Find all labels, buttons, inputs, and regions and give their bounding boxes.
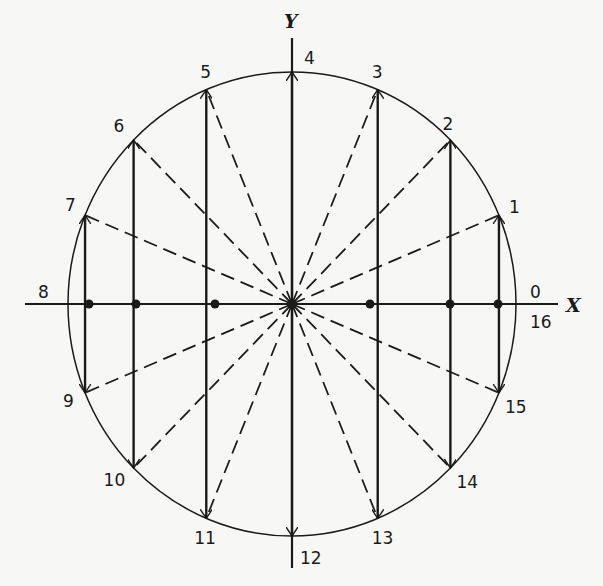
projection-dot: [288, 300, 297, 309]
point-label-14: 14: [456, 472, 478, 492]
radial-line-1: [292, 215, 499, 304]
point-label-8: 8: [38, 282, 49, 302]
radial-line-2: [292, 140, 450, 304]
projection-dot: [494, 300, 503, 309]
radial-line-5: [206, 90, 292, 304]
point-label-6: 6: [114, 116, 125, 136]
projection-dot: [211, 300, 220, 309]
radial-line-14: [292, 304, 450, 468]
projection-dot: [366, 300, 375, 309]
point-label-3: 3: [372, 62, 383, 82]
point-label-10: 10: [104, 470, 126, 490]
point-label-4: 4: [304, 48, 315, 68]
radial-line-13: [292, 304, 378, 518]
point-label-11: 11: [194, 528, 216, 548]
projection-dot: [85, 300, 94, 309]
point-label-15: 15: [505, 397, 527, 417]
radial-line-11: [206, 304, 292, 518]
point-label-16: 16: [530, 312, 552, 332]
point-label-12: 12: [300, 548, 322, 568]
diagram-canvas: 012345678910111213141516 X Y: [0, 0, 603, 586]
point-label-13: 13: [372, 528, 394, 548]
projection-dot: [132, 300, 141, 309]
radial-line-3: [292, 90, 378, 304]
radial-line-7: [85, 215, 292, 304]
point-label-7: 7: [65, 195, 76, 215]
point-label-2: 2: [442, 114, 453, 134]
radial-line-10: [134, 304, 292, 468]
point-label-0: 0: [530, 282, 541, 302]
radial-line-6: [134, 140, 292, 304]
point-label-9: 9: [63, 391, 74, 411]
projection-dot: [446, 300, 455, 309]
circle-diagram: 012345678910111213141516 X Y: [0, 0, 603, 586]
point-label-5: 5: [200, 62, 211, 82]
x-axis-label: X: [565, 294, 582, 316]
radial-line-9: [85, 304, 292, 393]
point-label-1: 1: [509, 197, 520, 217]
y-axis-label: Y: [284, 10, 300, 32]
radial-line-15: [292, 304, 499, 393]
